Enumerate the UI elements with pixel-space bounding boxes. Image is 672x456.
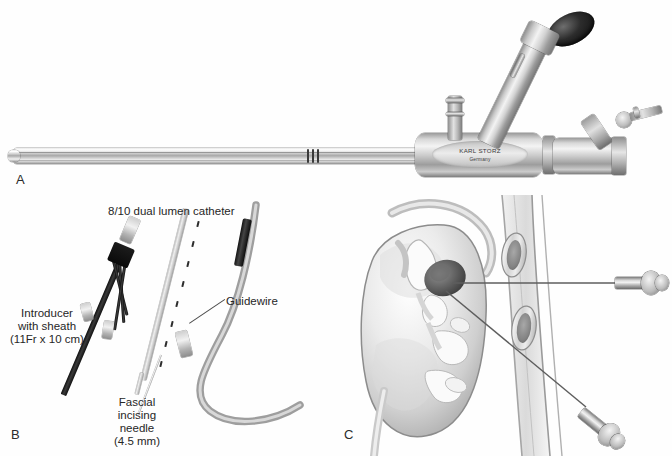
label-fascial-needle-line4: (4.5 mm) <box>104 435 170 449</box>
label-guidewire: Guidewire <box>226 295 278 309</box>
kidney-anatomy-illustration <box>336 195 672 456</box>
label-dual-lumen-catheter: 8/10 dual lumen catheter <box>108 205 235 219</box>
depth-marking-band <box>317 149 319 163</box>
panel-a-nephroscope: KARL STORZ Germany A <box>0 0 672 195</box>
upper-needle-hub[interactable] <box>615 271 671 295</box>
shaft-tip <box>8 150 20 162</box>
brand-name-line2: Germany <box>432 156 528 163</box>
brand-name-line1: KARL STORZ <box>432 147 528 154</box>
brand-badge-plate <box>432 141 528 168</box>
panel-c-renal-access: C <box>336 195 672 456</box>
label-introducer-line2: with sheath <box>2 320 92 334</box>
panel-letter-c: C <box>344 427 354 442</box>
proximal-end-collar <box>612 137 626 175</box>
label-fascial-needle-line1: Fascial <box>104 396 170 410</box>
label-fascial-needle-line3: needle <box>104 422 170 436</box>
shaft-shadow-line <box>16 160 416 161</box>
irrigation-port-collar <box>446 112 464 116</box>
panel-b-access-set: 8/10 dual lumen catheter Guidewire Intro… <box>0 195 336 456</box>
figure-container: KARL STORZ Germany A <box>0 0 672 456</box>
upper-needle-hub-cap <box>655 275 669 291</box>
label-introducer-line1: Introducer <box>2 307 92 321</box>
depth-marking-band <box>312 149 314 163</box>
irrigation-port-collar <box>446 98 464 103</box>
shaft-highlight-line <box>16 152 416 153</box>
panel-letter-a: A <box>16 172 25 187</box>
label-fascial-needle-line2: incising <box>104 409 170 423</box>
panel-letter-b: B <box>11 427 20 442</box>
depth-marking-band <box>307 149 309 163</box>
nephroscope-shaft <box>14 148 418 164</box>
label-introducer-line3: (11Fr x 10 cm) <box>2 333 92 347</box>
